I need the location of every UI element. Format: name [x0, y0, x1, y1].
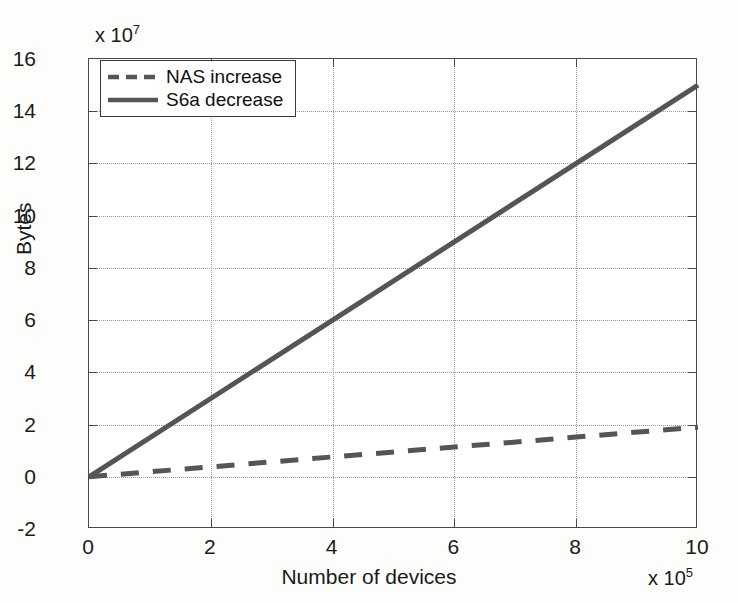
tick-mark-y-right: [688, 111, 696, 112]
y-exponent-power: 7: [133, 22, 140, 37]
gridline-horizontal: [89, 320, 696, 321]
tick-mark-x: [333, 519, 334, 527]
gridline-horizontal: [89, 425, 696, 426]
tick-mark-y: [89, 372, 97, 373]
gridline-vertical: [333, 59, 334, 527]
legend-swatch-dashed: [107, 70, 159, 84]
chart-figure: x 107 x 105 Bytes Number of devices -202…: [0, 0, 738, 603]
y-tick-label: 4: [0, 361, 36, 382]
legend-swatch-solid: [107, 93, 159, 107]
x-tick-label: 4: [302, 536, 362, 557]
data-line-s6a-decrease: [89, 85, 698, 477]
gridline-vertical: [211, 59, 212, 527]
tick-mark-x-top: [333, 59, 334, 67]
tick-mark-y-right: [688, 372, 696, 373]
x-axis-title: Number of devices: [0, 565, 738, 589]
tick-mark-y: [89, 111, 97, 112]
y-tick-label: -2: [0, 518, 36, 539]
gridline-vertical: [576, 59, 577, 527]
plot-area: [88, 58, 697, 528]
chart-legend: NAS increase S6a decrease: [100, 60, 296, 117]
tick-mark-x-top: [454, 59, 455, 67]
tick-mark-y-right: [688, 320, 696, 321]
data-line-nas-increase: [89, 427, 698, 477]
y-tick-label: 12: [0, 152, 36, 173]
legend-item-nas-increase: NAS increase: [107, 65, 289, 88]
tick-mark-y-right: [688, 425, 696, 426]
x-tick-label: 8: [545, 536, 605, 557]
x-tick-label: 10: [667, 536, 727, 557]
y-tick-label: 14: [0, 100, 36, 121]
x-tick-label: 2: [180, 536, 240, 557]
y-tick-label: 0: [0, 466, 36, 487]
tick-mark-y: [89, 268, 97, 269]
y-tick-label: 6: [0, 309, 36, 330]
data-series-layer: [89, 59, 698, 529]
gridline-horizontal: [89, 163, 696, 164]
tick-mark-x: [576, 519, 577, 527]
tick-mark-x-top: [576, 59, 577, 67]
gridline-horizontal: [89, 216, 696, 217]
y-tick-label: 8: [0, 257, 36, 278]
y-tick-label: 2: [0, 414, 36, 435]
x-tick-label: 0: [58, 536, 118, 557]
legend-label-s6a-decrease: S6a decrease: [166, 90, 283, 109]
y-tick-label: 16: [0, 48, 36, 69]
y-axis-exponent-label: x 107: [95, 22, 140, 47]
tick-mark-y: [89, 425, 97, 426]
tick-mark-y-right: [688, 163, 696, 164]
tick-mark-y: [89, 477, 97, 478]
legend-label-nas-increase: NAS increase: [166, 67, 282, 86]
tick-mark-y: [89, 216, 97, 217]
tick-mark-y: [89, 163, 97, 164]
gridline-horizontal: [89, 477, 696, 478]
tick-mark-y-right: [688, 477, 696, 478]
x-tick-label: 6: [423, 536, 483, 557]
y-tick-label: 10: [0, 205, 36, 226]
tick-mark-x: [211, 519, 212, 527]
legend-item-s6a-decrease: S6a decrease: [107, 88, 289, 111]
gridline-horizontal: [89, 268, 696, 269]
tick-mark-y: [89, 320, 97, 321]
y-exponent-base: x 10: [95, 24, 133, 46]
tick-mark-x: [454, 519, 455, 527]
gridline-vertical: [454, 59, 455, 527]
tick-mark-y-right: [688, 268, 696, 269]
gridline-horizontal: [89, 372, 696, 373]
tick-mark-y-right: [688, 216, 696, 217]
